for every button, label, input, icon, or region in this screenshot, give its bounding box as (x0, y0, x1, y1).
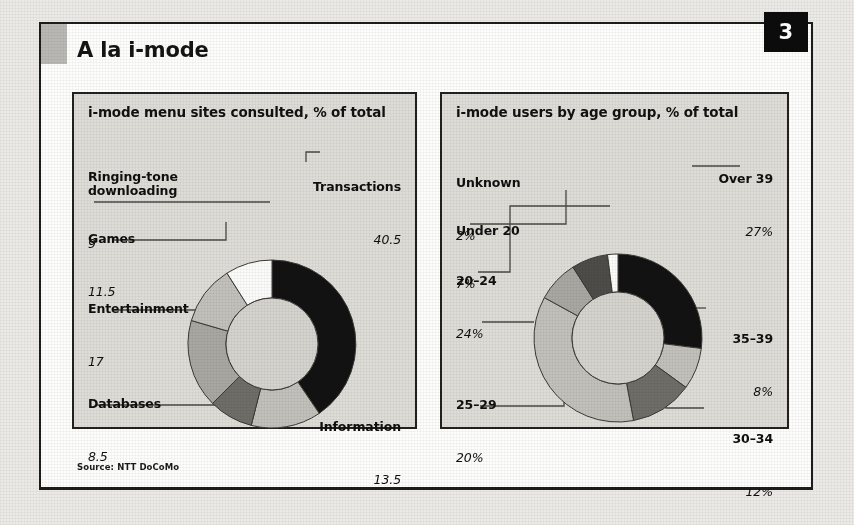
callout-label: 20–24 (456, 274, 497, 288)
corner-accent-bar (41, 24, 67, 64)
callout-value: 27% (719, 224, 773, 239)
callout-transactions: Transactions 40.5 (313, 142, 401, 285)
callout-value: 24% (456, 326, 497, 341)
callout-label: 25–29 (456, 398, 497, 412)
callout-over-39: Over 39 27% (719, 134, 773, 277)
callout-20-24: 20–24 24% (456, 236, 497, 379)
donut-hole (226, 298, 318, 390)
callout-label: Information (319, 420, 401, 434)
donut-slices-right (534, 254, 702, 422)
bottom-rule (41, 487, 811, 489)
callout-information: Information 13.5 (319, 382, 401, 525)
callout-label: Transactions (313, 180, 401, 194)
callout-value: 40.5 (313, 232, 401, 247)
callout-databases: Databases 8.5 (88, 359, 161, 502)
callout-value: 20% (456, 450, 497, 465)
callout-label: 35–39 (732, 332, 773, 346)
page-title: A la i-mode (77, 38, 209, 62)
callout-label: 30–34 (732, 432, 773, 446)
donut-hole (572, 292, 664, 384)
scanned-page: 3 A la i-mode i-mode menu sites consulte… (0, 0, 854, 525)
callout-label: Databases (88, 397, 161, 411)
page-number-text: 3 (778, 20, 793, 44)
callout-label: Entertainment (88, 302, 189, 316)
callout-label: Games (88, 232, 135, 246)
chart-panel-users-by-age: i-mode users by age group, % of total (440, 92, 789, 429)
callout-30-34: 30–34 12% (732, 394, 773, 525)
callout-value: 13.5 (319, 472, 401, 487)
callout-label: Over 39 (719, 172, 773, 186)
chart-panel-menu-sites: i-mode menu sites consulted, % of total (72, 92, 417, 429)
source-note: Source: NTT DoCoMo (77, 462, 179, 472)
callout-25-29: 25–29 20% (456, 360, 497, 503)
page-number-badge: 3 (764, 12, 808, 52)
